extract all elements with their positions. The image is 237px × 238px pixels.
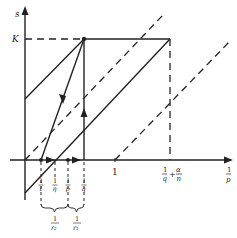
lower-solid-diagonal (25, 39, 170, 193)
y-axis (22, 6, 29, 200)
label-1-over-eta: 1 η (53, 177, 58, 193)
brace-r1 (68, 204, 84, 212)
y-axis-label: s (15, 9, 20, 19)
svg-text:α: α (176, 166, 181, 174)
svg-text:r₂: r₂ (51, 224, 57, 232)
label-1-over-q: 1 q (82, 177, 87, 193)
svg-text:1: 1 (39, 177, 43, 185)
svg-text:1: 1 (53, 215, 57, 223)
down-arrow-icon (59, 94, 66, 104)
label-1-over-p: 1 p (66, 177, 71, 193)
svg-text:n: n (177, 175, 182, 183)
x-axis (10, 157, 233, 164)
label-1-over-t: 1 t (39, 177, 44, 193)
upper-dashed-diagonal (25, 15, 163, 160)
right-arrow-icon-2 (72, 157, 81, 164)
svg-text:1: 1 (53, 177, 57, 185)
x-axis-label: 1 p (226, 166, 231, 184)
x-tick-1-label: 1 (112, 167, 118, 177)
svg-text:1: 1 (66, 177, 70, 185)
svg-text:r₁: r₁ (73, 224, 79, 232)
svg-text:+: + (169, 170, 176, 179)
right-dashed-diagonal (115, 40, 231, 160)
svg-text:q: q (163, 175, 168, 183)
svg-text:p: p (66, 185, 71, 193)
svg-text:1: 1 (227, 166, 231, 174)
svg-text:1: 1 (75, 215, 79, 223)
svg-text:1: 1 (163, 166, 167, 174)
svg-text:t: t (40, 185, 43, 193)
label-1-over-r2: 1 r₂ (51, 215, 59, 232)
svg-text:1: 1 (82, 177, 86, 185)
up-arrow-icon (81, 108, 88, 117)
k-label: K (11, 34, 20, 44)
x-tick-q-alpha-label: 1 q + α n (162, 166, 182, 183)
brace-r2 (41, 204, 68, 212)
svg-text:η: η (53, 185, 57, 193)
label-1-over-r1: 1 r₁ (73, 215, 81, 232)
svg-text:p: p (226, 176, 231, 184)
diagram-canvas: s K 1 1 q + α n 1 p 1 t 1 η 1 p 1 q 1 (0, 0, 237, 238)
svg-text:q: q (82, 185, 86, 193)
point-1-over-p (66, 158, 70, 162)
top-point (82, 37, 86, 41)
point-1-over-t (39, 158, 43, 162)
upper-solid-diagonal (25, 39, 84, 99)
